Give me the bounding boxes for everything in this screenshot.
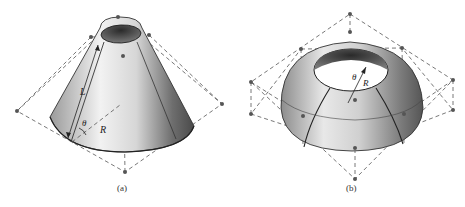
label-R-b: R [362, 78, 369, 88]
label-theta-a: θ [82, 118, 87, 128]
label-R-a: R [99, 124, 106, 135]
caption-a: (a) [117, 183, 127, 193]
label-theta-b: θ [352, 72, 357, 82]
label-L: L [79, 86, 86, 97]
figure-a-cone: L θ R (a) [15, 15, 224, 193]
figure-b-dome: θ R (b) [249, 12, 455, 193]
caption-b: (b) [346, 183, 357, 193]
diagram-canvas: L θ R (a) [0, 0, 465, 207]
